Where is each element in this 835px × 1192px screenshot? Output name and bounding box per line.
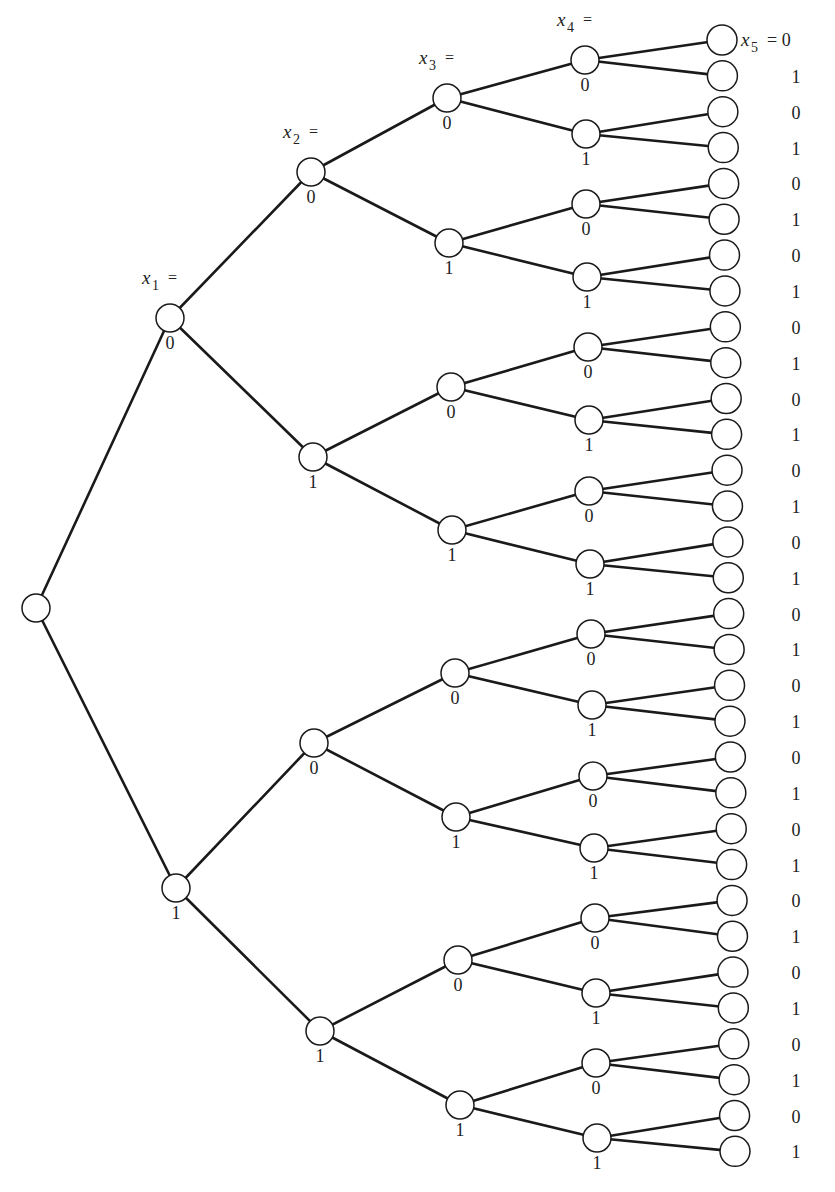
branch-value-label: 1	[585, 435, 594, 455]
tree-edge	[586, 183, 724, 204]
tree-node	[435, 229, 463, 257]
tree-edge	[589, 470, 727, 491]
leaf-value-label: 0	[792, 676, 801, 696]
tree-edge	[455, 634, 591, 673]
tree-edge	[458, 918, 595, 960]
tree-edge	[591, 634, 729, 649]
branch-value-label: 0	[581, 75, 590, 95]
equals-sign: =	[445, 49, 454, 66]
leaf-node	[707, 25, 737, 55]
tree-edge	[596, 1044, 734, 1063]
branch-value-label: 0	[454, 975, 463, 995]
tree-edge	[586, 204, 724, 219]
leaf-node	[708, 133, 738, 163]
tree-node	[297, 158, 325, 186]
tree-edge	[593, 757, 730, 776]
branch-value-label: 0	[307, 187, 316, 207]
tree-node	[442, 803, 470, 831]
tree-edge	[456, 817, 594, 848]
branch-value-label: 0	[166, 333, 175, 353]
tree-node	[581, 904, 609, 932]
tree-edge	[591, 614, 729, 634]
root-node	[22, 594, 50, 622]
equals-sign: = 0	[767, 30, 791, 50]
leaf-node	[710, 240, 740, 270]
leaf-node	[717, 921, 747, 951]
leaf-value-label: 0	[792, 174, 801, 194]
tree-edge	[452, 491, 589, 530]
tree-edge	[595, 918, 732, 936]
leaf-node	[714, 634, 744, 664]
tree-edge	[320, 1031, 460, 1105]
leaf-node	[711, 384, 741, 414]
leaf-node	[719, 1065, 749, 1095]
tree-node	[576, 550, 604, 578]
tree-edge	[597, 1138, 735, 1151]
leaf-value-label: 1	[792, 712, 801, 732]
tree-edge	[588, 347, 726, 363]
variable-subscript: 2	[293, 132, 300, 147]
tree-edge	[597, 1116, 735, 1139]
leaf-node	[709, 204, 739, 234]
tree-edge	[170, 318, 313, 457]
tree-edge	[311, 98, 447, 172]
branch-value-label: 1	[592, 1008, 601, 1028]
leaf-value-label: 1	[792, 139, 801, 159]
leaf-node	[713, 527, 743, 557]
tree-edge	[596, 972, 733, 993]
tree-node	[438, 516, 466, 544]
branch-value-label: 1	[445, 258, 454, 278]
branch-value-label: 1	[448, 545, 457, 565]
leaf-node	[708, 97, 738, 127]
tree-node	[156, 304, 184, 332]
variable-name: x	[418, 47, 428, 68]
branch-value-label: 0	[591, 933, 600, 953]
tree-node	[446, 1091, 474, 1119]
branch-value-label: 1	[586, 579, 595, 599]
leaf-value-label: 0	[792, 246, 801, 266]
tree-edge	[585, 60, 722, 76]
variable-subscript: 1	[152, 278, 159, 293]
tree-edge	[447, 60, 585, 98]
leaf-node	[710, 276, 740, 306]
tree-edge	[596, 993, 733, 1008]
leaf-value-label: 0	[792, 318, 801, 338]
tree-node	[583, 1124, 611, 1152]
tree-node	[300, 729, 328, 757]
leaf-node	[716, 778, 746, 808]
tree-node	[162, 874, 190, 902]
leaf-value-label: 0	[792, 103, 801, 123]
tree-node	[575, 406, 603, 434]
branch-value-label: 1	[309, 472, 318, 492]
leaf-node	[718, 957, 748, 987]
leaf-value-label: 0	[792, 461, 801, 481]
variable-name: x	[556, 9, 566, 30]
leaf-value-label: 1	[792, 784, 801, 804]
level-header-x4: x4=	[556, 9, 592, 35]
leaf-value-label: 1	[792, 425, 801, 445]
leaf-value-label: 0	[792, 605, 801, 625]
level-header-x1: x1=	[141, 267, 177, 293]
tree-node	[579, 762, 607, 790]
tree-edge	[589, 420, 727, 434]
tree-edge	[36, 318, 170, 608]
leaf-node	[720, 1101, 750, 1131]
branch-value-label: 1	[582, 149, 591, 169]
variable-name: x	[141, 267, 151, 288]
tree-edge	[589, 491, 727, 506]
tree-edge	[594, 829, 731, 848]
leaf-value-label: 1	[792, 497, 801, 517]
tree-node	[574, 333, 602, 361]
branch-value-label: 0	[451, 688, 460, 708]
branch-value-label: 0	[587, 649, 596, 669]
branch-value-label: 1	[172, 903, 181, 923]
leaf-value-label: 0	[792, 1035, 801, 1055]
variable-name: x	[282, 121, 292, 142]
variable-subscript: 5	[751, 40, 758, 55]
tree-edge	[449, 204, 586, 243]
branch-value-label: 1	[588, 720, 597, 740]
leaf-value-label: 1	[792, 640, 801, 660]
leaf-value-label: 1	[792, 927, 801, 947]
tree-node	[572, 190, 600, 218]
level-variable-headers: x1=x2=x3=x4=x5= 0	[141, 9, 791, 293]
